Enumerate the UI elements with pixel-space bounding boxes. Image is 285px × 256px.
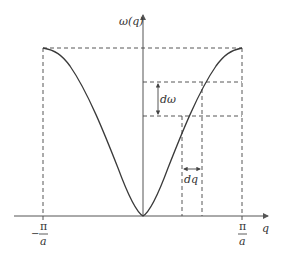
- right-tick-denominator: a: [239, 235, 246, 248]
- left-tick-sign: −: [31, 228, 39, 239]
- left-tick-numerator: π: [40, 220, 47, 233]
- left-tick-label: − π a: [31, 220, 48, 248]
- x-axis-label: q: [262, 222, 269, 235]
- right-tick-label: π a: [238, 220, 247, 248]
- d-q-dashes: [182, 82, 202, 216]
- dispersion-diagram: ω(q) q dω dq − π a π a: [0, 0, 285, 256]
- y-axis-label: ω(q): [119, 15, 144, 28]
- d-omega-label: dω: [160, 93, 176, 106]
- d-q-label: dq: [184, 173, 198, 186]
- left-tick-denominator: a: [40, 235, 47, 248]
- right-tick-numerator: π: [239, 220, 246, 233]
